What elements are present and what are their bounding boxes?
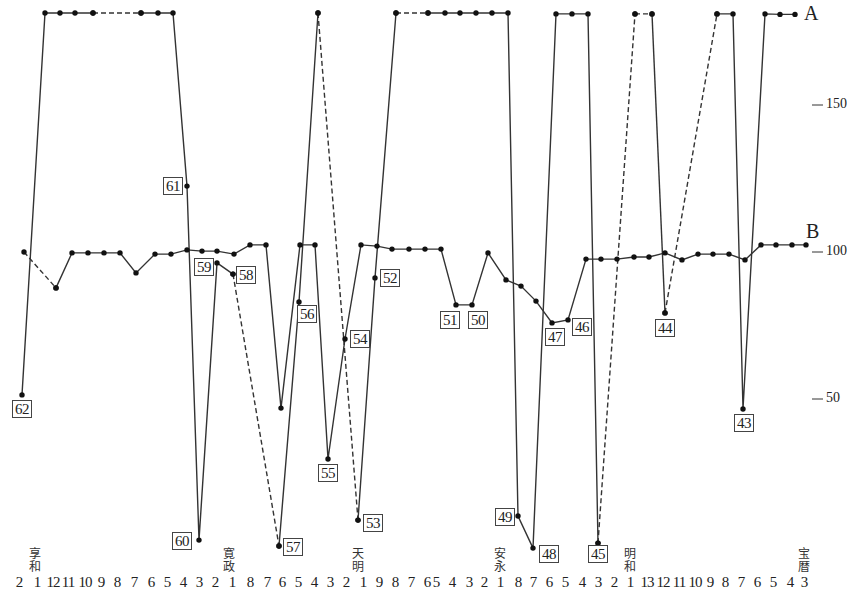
series-a-dashed-segment <box>665 14 717 313</box>
x-tick-label: 1 <box>229 574 236 591</box>
data-point <box>714 11 719 16</box>
point-label-61: 61 <box>163 177 183 195</box>
data-point <box>296 299 301 304</box>
series-b <box>21 242 808 461</box>
data-point <box>742 257 747 262</box>
point-label-55: 55 <box>318 464 338 482</box>
x-tick-label: 3 <box>196 574 203 591</box>
x-tick-label: 10 <box>689 574 702 591</box>
point-label-60: 60 <box>172 532 192 550</box>
era-label: 天明 <box>351 548 365 574</box>
data-point <box>117 250 122 255</box>
data-point <box>184 247 189 252</box>
data-point <box>442 10 447 15</box>
x-tick-label: 5 <box>562 574 569 591</box>
x-tick-label: 2 <box>343 574 350 591</box>
y-axis-ticks <box>812 105 823 399</box>
data-point <box>72 10 77 15</box>
data-point <box>263 242 268 247</box>
x-tick-label: 5 <box>295 574 302 591</box>
data-point <box>231 251 236 256</box>
data-point <box>230 271 235 276</box>
series-a-solid-segment <box>428 13 598 548</box>
point-label-49: 49 <box>495 508 515 526</box>
data-point <box>740 406 745 411</box>
point-label-62: 62 <box>12 400 32 418</box>
data-point <box>646 254 651 259</box>
series-a-solid-segment <box>358 13 396 520</box>
x-tick-label: 3 <box>466 574 473 591</box>
data-point <box>503 277 508 282</box>
data-point <box>773 242 778 247</box>
data-point <box>315 10 320 15</box>
data-point <box>565 317 570 322</box>
data-point <box>355 517 360 522</box>
x-tick-label: 7 <box>264 574 271 591</box>
data-point <box>325 456 330 461</box>
data-point <box>614 256 619 261</box>
data-point <box>438 246 443 251</box>
data-point <box>585 11 590 16</box>
data-point <box>730 11 735 16</box>
point-label-51: 51 <box>440 311 460 329</box>
data-point <box>469 302 474 307</box>
data-point <box>422 246 427 251</box>
data-point <box>168 251 173 256</box>
series-layer <box>19 10 808 551</box>
x-tick-label: 2 <box>611 574 618 591</box>
data-point <box>489 10 494 15</box>
series-a-solid-segment <box>717 14 795 409</box>
data-point <box>21 249 26 254</box>
x-tick-label: 2 <box>481 574 488 591</box>
data-point <box>518 283 523 288</box>
series-a-solid-segment <box>279 13 318 546</box>
era-label: 安永 <box>493 548 507 574</box>
data-point <box>19 392 24 397</box>
data-point <box>406 246 411 251</box>
x-tick-label: 3 <box>801 574 808 591</box>
x-tick-label: 6 <box>546 574 553 591</box>
point-label-45: 45 <box>588 545 608 563</box>
x-tick-label: 1 <box>34 574 41 591</box>
x-tick-label: 4 <box>449 574 456 591</box>
data-point <box>710 251 715 256</box>
data-point <box>598 256 603 261</box>
x-tick-label: 6 <box>754 574 761 591</box>
point-label-48: 48 <box>539 545 559 563</box>
series-b-solid-segment <box>56 245 806 459</box>
point-label-43: 43 <box>734 414 754 432</box>
data-point <box>57 10 62 15</box>
point-label-46: 46 <box>572 318 592 336</box>
data-point <box>662 250 667 255</box>
era-label: 寛政 <box>222 548 236 574</box>
data-point <box>155 10 160 15</box>
data-point <box>549 320 554 325</box>
x-tick-label: 11 <box>673 574 685 591</box>
data-point <box>662 310 667 315</box>
series-a-solid-segment <box>141 13 233 540</box>
data-point <box>457 10 462 15</box>
data-point <box>152 251 157 256</box>
era-label: 宝暦 <box>797 548 811 574</box>
data-point <box>358 242 363 247</box>
data-point <box>133 270 138 275</box>
series-a-solid-segment <box>22 13 93 395</box>
data-point <box>69 250 74 255</box>
x-tick-label: 5 <box>433 574 440 591</box>
point-label-53: 53 <box>363 514 383 532</box>
x-tick-label: 6 <box>279 574 286 591</box>
data-point <box>758 242 763 247</box>
data-point <box>85 250 90 255</box>
x-tick-label: 1 <box>627 574 634 591</box>
data-point <box>505 10 510 15</box>
data-point <box>533 298 538 303</box>
data-point <box>374 243 379 248</box>
series-a-dashed-segment <box>318 13 358 520</box>
data-point <box>342 336 347 341</box>
data-point <box>90 10 95 15</box>
x-tick-label: 2 <box>16 574 23 591</box>
point-label-52: 52 <box>380 269 400 287</box>
x-tick-label: 7 <box>408 574 415 591</box>
x-tick-label: 4 <box>579 574 586 591</box>
